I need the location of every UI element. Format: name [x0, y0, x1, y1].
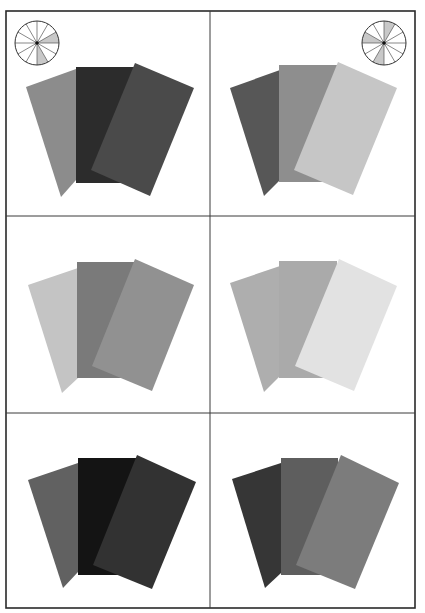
panel-middle-left	[28, 259, 194, 393]
swatch-card-left	[232, 463, 281, 588]
panel-bottom-right	[232, 455, 399, 589]
panel-top-right	[230, 62, 397, 196]
swatch-card-left	[26, 69, 76, 197]
harmony-figure	[0, 0, 425, 613]
panel-bottom-left	[28, 455, 196, 589]
swatch-card-left	[28, 268, 78, 393]
left-harmony-wheel-icon	[15, 21, 59, 65]
swatch-card-left	[28, 463, 78, 588]
panel-middle-right	[230, 259, 397, 392]
cards-layer	[26, 62, 399, 589]
figure-canvas	[0, 0, 425, 613]
swatch-card-left	[230, 266, 280, 392]
right-harmony-wheel-icon	[362, 21, 406, 65]
swatch-card-left	[230, 70, 280, 196]
panel-top-left	[26, 63, 194, 197]
